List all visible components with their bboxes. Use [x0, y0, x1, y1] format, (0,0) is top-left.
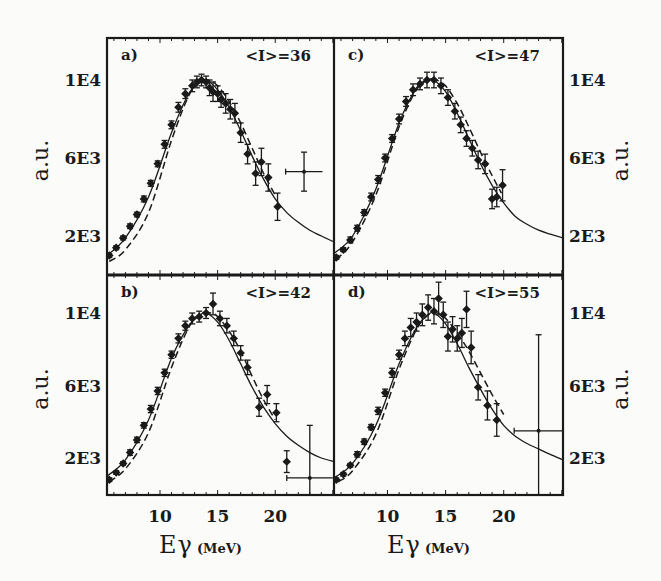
- data-points: [105, 74, 282, 260]
- data-points: [332, 282, 501, 484]
- fit-curve-dashed: [339, 313, 504, 482]
- panel-d: d)<I>=55: [332, 275, 563, 527]
- fit-curve-dashed: [109, 80, 275, 262]
- wide-bin-point: [514, 335, 563, 527]
- y-axis-title: a.u.: [28, 368, 53, 409]
- panel-label: d): [348, 283, 366, 301]
- x-tick-label: 20: [263, 506, 287, 526]
- panel-c: c)<I>=47: [332, 38, 563, 275]
- y-tick-label: 1E4: [569, 70, 606, 90]
- y-tick-label: 1E4: [64, 70, 101, 90]
- data-points: [105, 293, 291, 484]
- panel-label: a): [121, 46, 138, 64]
- y-tick-label: 1E4: [569, 303, 606, 323]
- x-tick-label: 15: [434, 506, 458, 526]
- labels-layer: 1E46E32E3a.u.1E46E32E3a.u.1E46E32E310152…: [28, 70, 633, 559]
- wide-bin-point: [287, 425, 333, 530]
- y-tick-label: 6E3: [569, 148, 606, 168]
- wide-bin-point: [286, 152, 323, 191]
- y-tick-label: 6E3: [64, 376, 101, 396]
- y-axis-title: a.u.: [608, 140, 633, 181]
- x-tick-label: 15: [206, 506, 230, 526]
- panel-a: a)<I>=36: [105, 38, 334, 275]
- figure-canvas: a)<I>=36c)<I>=47b)<I>=42d)<I>=55 1E46E32…: [0, 0, 661, 581]
- panel-label: b): [121, 283, 139, 301]
- panel-label: c): [348, 46, 364, 64]
- y-tick-label: 2E3: [64, 448, 101, 468]
- x-axis-title: Eγ(MeV): [387, 531, 470, 559]
- figure-2x2-gdr-spectra: a)<I>=36c)<I>=47b)<I>=42d)<I>=55 1E46E32…: [0, 0, 661, 581]
- y-tick-label: 2E3: [569, 448, 606, 468]
- panel-b: b)<I>=42: [105, 275, 334, 531]
- mean-spin-annotation: <I>=42: [245, 284, 311, 302]
- y-tick-label: 6E3: [64, 148, 101, 168]
- y-tick-label: 6E3: [569, 376, 606, 396]
- mean-spin-annotation: <I>=47: [474, 47, 540, 65]
- x-tick-label: 10: [148, 506, 172, 526]
- y-tick-label: 2E3: [569, 226, 606, 246]
- y-tick-label: 1E4: [64, 303, 101, 323]
- y-tick-label: 2E3: [64, 226, 101, 246]
- y-axis-title: a.u.: [608, 368, 633, 409]
- mean-spin-annotation: <I>=36: [245, 47, 311, 65]
- x-axis-title: Eγ(MeV): [159, 531, 242, 559]
- fit-curve-dashed: [109, 313, 275, 482]
- y-axis-title: a.u.: [28, 140, 53, 181]
- fit-curve-solid: [107, 312, 334, 476]
- mean-spin-annotation: <I>=55: [474, 284, 540, 302]
- x-tick-label: 10: [376, 506, 400, 526]
- x-tick-label: 20: [492, 506, 516, 526]
